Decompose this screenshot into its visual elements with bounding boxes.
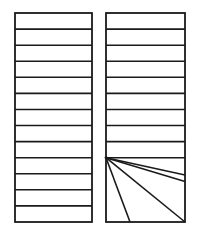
left-panel bbox=[15, 13, 92, 222]
left-panel-outline bbox=[15, 13, 92, 222]
figure-canvas bbox=[0, 0, 199, 232]
right-panel-fan-apex bbox=[105, 156, 108, 159]
right-panel bbox=[105, 13, 185, 222]
figure-root bbox=[0, 0, 199, 232]
